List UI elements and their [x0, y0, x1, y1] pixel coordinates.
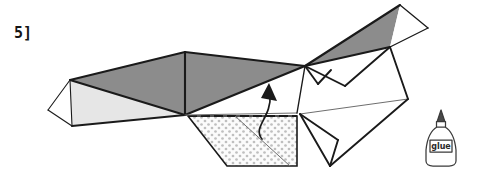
face-left-tip-white — [48, 80, 72, 126]
papercraft-net-illustration: glue — [0, 0, 477, 177]
diagram-canvas: glue 5] — [0, 0, 477, 177]
glue-bottle-nozzle — [437, 110, 445, 122]
step-number-label: 5] — [14, 26, 32, 41]
glue-bottle-label-text: glue — [431, 142, 451, 151]
glue-bottle-icon: glue — [426, 110, 456, 166]
glue-tab — [188, 116, 297, 166]
glue-tab-fill — [188, 116, 297, 166]
